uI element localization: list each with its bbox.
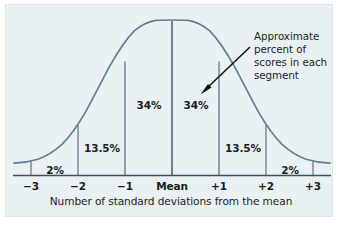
x-tick-label-plus3: +3 (305, 181, 321, 192)
x-tick-label-plus1: +1 (211, 181, 227, 192)
x-tick-label-minus1: −1 (117, 181, 133, 192)
x-tick-label-minus3: −3 (23, 181, 39, 192)
x-tick-label-minus2: −2 (70, 181, 86, 192)
segment-label-plus2-plus3: 2% (281, 165, 299, 176)
segment-label-minus1-mean: 34% (137, 100, 162, 111)
x-tick-label-plus2: +2 (258, 181, 274, 192)
annotation-text-block: Approximate percent of scores in each se… (254, 31, 327, 83)
annotation-line-1: Approximate (254, 31, 327, 41)
x-tick-label-mean: Mean (156, 181, 188, 192)
segment-label-mean-plus1: 34% (184, 100, 209, 111)
annotation-line-2: percent of (254, 44, 327, 54)
annotation-arrow-icon (201, 47, 251, 95)
segment-label-minus3-minus2: 2% (46, 165, 64, 176)
annotation-line-3: scores in each (254, 57, 327, 67)
segment-label-plus1-plus2: 13.5% (225, 143, 261, 154)
normal-distribution-figure: 2% 13.5% 34% 34% 13.5% 2% −3 −2 −1 Mean … (0, 0, 343, 230)
annotation-line-4: segment (254, 70, 327, 80)
x-axis-caption: Number of standard deviations from the m… (50, 196, 293, 207)
segment-label-minus2-minus1: 13.5% (84, 143, 120, 154)
